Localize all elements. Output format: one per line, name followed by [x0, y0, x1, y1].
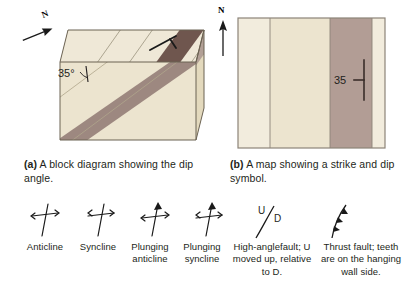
caption-text-b: A map showing a strike and dip symbol.	[230, 158, 395, 184]
figure-root: N 35° (a) A block diagram showing the di…	[0, 0, 409, 294]
plunging-syncline-plunge-arrow	[208, 202, 216, 210]
legend-label-plunging-syncline: Plunging syncline	[176, 241, 228, 266]
syncline-symbol	[88, 204, 114, 236]
legend-label-plunging-anticline: Plunging anticline	[124, 241, 176, 266]
syncline-arrow-left	[88, 210, 92, 216]
map-unit-pale-west	[238, 18, 270, 148]
legend-symbols-svg: U D	[0, 196, 409, 242]
thrust-tooth-1	[333, 226, 340, 232]
panel-map: 35 N (b) A map showing a strike and dip …	[212, 0, 409, 196]
high-angle-fault-symbol: U D	[256, 205, 281, 238]
legend-symbols: U D	[0, 196, 409, 242]
high-angle-fault-down-label: D	[274, 213, 281, 224]
caption-tag-a: (a)	[24, 158, 37, 170]
north-label-map: N	[218, 5, 225, 15]
legend-label-syncline: Syncline	[72, 241, 124, 253]
anticline-axial-line	[42, 204, 48, 236]
thrust-fault-symbol	[332, 205, 348, 238]
panel-block-diagram: N 35° (a) A block diagram showing the di…	[0, 0, 212, 196]
block-diagram-art: N 35°	[0, 0, 212, 152]
legend-label-anticline: Anticline	[18, 241, 72, 253]
north-arrow-map: N	[218, 5, 227, 56]
thrust-tooth-2	[336, 217, 343, 223]
map-units	[238, 18, 385, 148]
north-arrow-head-block	[42, 25, 54, 36]
legend-label-thrust-fault: Thrust fault; teeth are on the hanging w…	[316, 241, 406, 278]
caption-tag-b: (b)	[230, 158, 244, 170]
high-angle-fault-up-label: U	[258, 205, 265, 216]
legend-labels: Anticline Syncline Plunging anticline Pl…	[0, 241, 409, 278]
legend: U D Anticline Syncline Plunging anticlin…	[0, 196, 409, 294]
plunging-anticline-symbol	[141, 202, 169, 236]
north-label-block: N	[40, 8, 50, 20]
anticline-symbol	[31, 204, 59, 236]
dip-angle-label: 35°	[58, 67, 75, 79]
syncline-axial-line	[98, 204, 104, 236]
caption-panel-b: (b) A map showing a strike and dip symbo…	[230, 158, 408, 186]
caption-text-a: A block diagram showing the dip angle.	[24, 158, 193, 184]
map-svg: 35 N	[212, 0, 409, 152]
legend-label-high-angle-fault: High-anglefault; U moved up, relative to…	[228, 241, 316, 278]
plunging-anticline-plunge-arrow	[154, 202, 162, 210]
map-art: 35 N	[212, 0, 409, 152]
north-arrow-block: N	[21, 8, 54, 44]
map-unit-pale-east	[372, 18, 385, 148]
dip-value-label-map: 35	[334, 74, 346, 86]
block-diagram-svg: N 35°	[0, 0, 212, 152]
anticline-limb-bar	[32, 213, 58, 216]
plunging-syncline-symbol	[196, 202, 222, 236]
plunging-syncline-arrow-left	[196, 212, 200, 218]
caption-panel-a: (a) A block diagram showing the dip angl…	[24, 158, 200, 186]
